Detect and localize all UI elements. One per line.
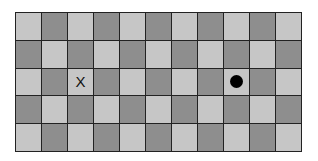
board-cell[interactable]: [94, 124, 119, 151]
board-cell[interactable]: [42, 124, 67, 151]
board-cell[interactable]: [250, 69, 275, 96]
board-cell[interactable]: [120, 13, 145, 40]
dot-marker-icon: [230, 75, 243, 88]
board-cell[interactable]: [146, 124, 171, 151]
board-cell[interactable]: [172, 96, 197, 123]
board-cell[interactable]: [16, 69, 41, 96]
board-cell[interactable]: [146, 41, 171, 68]
board-cell[interactable]: [68, 96, 93, 123]
board-cell[interactable]: [42, 13, 67, 40]
board-cell[interactable]: [250, 96, 275, 123]
board-cell[interactable]: [198, 13, 223, 40]
board-cell[interactable]: [250, 41, 275, 68]
board-cell[interactable]: [224, 124, 249, 151]
board-cell[interactable]: [172, 13, 197, 40]
board-cell[interactable]: [42, 69, 67, 96]
board-cell[interactable]: [224, 41, 249, 68]
board-cell[interactable]: [172, 124, 197, 151]
board-cell[interactable]: [276, 41, 301, 68]
board-cell[interactable]: [146, 96, 171, 123]
board-cell[interactable]: [16, 41, 41, 68]
board-cell[interactable]: [16, 124, 41, 151]
board-cell[interactable]: [42, 96, 67, 123]
board-cell[interactable]: [146, 69, 171, 96]
board-cell[interactable]: [276, 13, 301, 40]
board-cell[interactable]: [198, 96, 223, 123]
x-marker-icon: X: [75, 74, 85, 89]
board-cell[interactable]: [120, 124, 145, 151]
board-cell[interactable]: [94, 96, 119, 123]
board-cell[interactable]: [120, 41, 145, 68]
board-cell[interactable]: [68, 41, 93, 68]
game-board: X: [15, 12, 302, 152]
board-cell[interactable]: [16, 13, 41, 40]
board-cell[interactable]: [120, 69, 145, 96]
board-cell[interactable]: [224, 13, 249, 40]
board-cell[interactable]: [94, 69, 119, 96]
board-cell[interactable]: [250, 13, 275, 40]
board-cell[interactable]: [68, 13, 93, 40]
board-cell[interactable]: [146, 13, 171, 40]
board-cell[interactable]: [16, 96, 41, 123]
board-cell[interactable]: [250, 124, 275, 151]
board-cell[interactable]: [94, 13, 119, 40]
board-cell[interactable]: [276, 69, 301, 96]
board-cell[interactable]: [198, 124, 223, 151]
board-cell[interactable]: X: [68, 69, 93, 96]
board-cell[interactable]: [224, 69, 249, 96]
board-cell[interactable]: [172, 69, 197, 96]
board-cell[interactable]: [94, 41, 119, 68]
board-cell[interactable]: [276, 96, 301, 123]
board-cell[interactable]: [42, 41, 67, 68]
board-cell[interactable]: [276, 124, 301, 151]
board-cell[interactable]: [172, 41, 197, 68]
board-cell[interactable]: [198, 41, 223, 68]
board-cell[interactable]: [120, 96, 145, 123]
board-cell[interactable]: [198, 69, 223, 96]
board-cell[interactable]: [68, 124, 93, 151]
board-cell[interactable]: [224, 96, 249, 123]
